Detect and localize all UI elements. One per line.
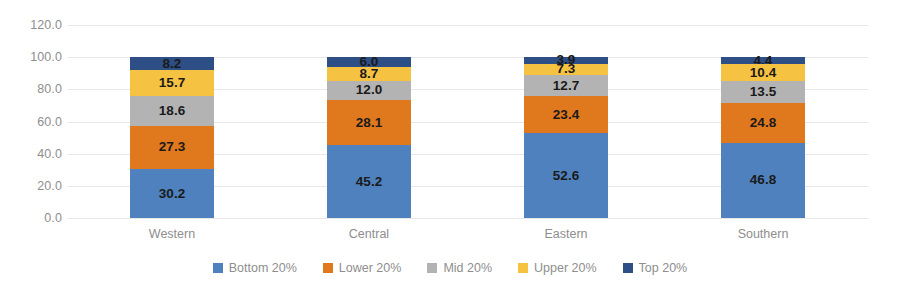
x-axis-category-label: Western (102, 228, 242, 241)
bar-segment[interactable]: 8.7 (327, 67, 411, 81)
legend-item[interactable]: Mid 20% (427, 262, 492, 275)
bar-segment[interactable]: 15.7 (130, 70, 214, 95)
y-axis: 0.020.040.060.080.0100.0120.0 (0, 25, 62, 218)
legend-item[interactable]: Upper 20% (518, 262, 597, 275)
gridline (68, 25, 868, 26)
legend-label: Mid 20% (443, 262, 492, 275)
y-axis-tick-label: 120.0 (6, 19, 62, 32)
x-axis-category-label: Central (299, 228, 439, 241)
bar-value-label: 28.1 (327, 116, 411, 130)
y-axis-tick-label: 80.0 (6, 83, 62, 96)
bar-group-western[interactable]: 8.215.718.627.330.2 (130, 57, 214, 218)
y-axis-tick-label: 100.0 (6, 51, 62, 64)
bar-segment[interactable]: 27.3 (130, 126, 214, 170)
bar-value-label: 12.7 (524, 79, 608, 93)
bar-value-label: 30.2 (130, 187, 214, 201)
bar-group-eastern[interactable]: 3.97.312.723.452.6 (524, 57, 608, 218)
bar-segment[interactable]: 52.6 (524, 133, 608, 218)
bar-segment[interactable]: 18.6 (130, 96, 214, 126)
bar-value-label: 46.8 (721, 174, 805, 188)
bar-value-label: 45.2 (327, 175, 411, 189)
legend-swatch-icon (623, 263, 633, 273)
y-axis-tick-label: 20.0 (6, 180, 62, 193)
bar-segment[interactable]: 7.3 (524, 64, 608, 76)
bar-group-central[interactable]: 6.08.712.028.145.2 (327, 57, 411, 218)
bar-value-label: 52.6 (524, 169, 608, 183)
bar-segment[interactable]: 30.2 (130, 169, 214, 218)
bar-value-label: 27.3 (130, 141, 214, 155)
bar-segment[interactable]: 6.0 (327, 57, 411, 67)
bar-group-southern[interactable]: 4.410.413.524.846.8 (721, 57, 805, 218)
legend-swatch-icon (518, 263, 528, 273)
stacked-bar-chart: 0.020.040.060.080.0100.0120.0 8.215.718.… (0, 0, 900, 296)
legend-label: Top 20% (639, 262, 688, 275)
bar-value-label: 10.4 (721, 66, 805, 80)
legend-item[interactable]: Top 20% (623, 262, 688, 275)
y-axis-tick-label: 0.0 (6, 212, 62, 225)
legend-label: Upper 20% (534, 262, 597, 275)
legend-label: Bottom 20% (229, 262, 297, 275)
plot-area: 8.215.718.627.330.26.08.712.028.145.23.9… (68, 25, 868, 218)
bar-segment[interactable]: 10.4 (721, 64, 805, 81)
bar-segment[interactable]: 13.5 (721, 81, 805, 103)
bar-value-label: 24.8 (721, 116, 805, 130)
legend-swatch-icon (213, 263, 223, 273)
y-axis-tick-label: 40.0 (6, 148, 62, 161)
bar-segment[interactable]: 8.2 (130, 57, 214, 70)
bar-segment[interactable]: 4.4 (721, 57, 805, 64)
bar-value-label: 8.7 (327, 67, 411, 81)
bar-segment[interactable]: 45.2 (327, 145, 411, 218)
legend-item[interactable]: Lower 20% (323, 262, 402, 275)
bar-segment[interactable]: 28.1 (327, 100, 411, 145)
x-axis-category-label: Southern (693, 228, 833, 241)
bar-segment[interactable]: 12.0 (327, 81, 411, 100)
bar-value-label: 12.0 (327, 84, 411, 98)
bar-segment[interactable]: 46.8 (721, 143, 805, 218)
bar-value-label: 8.2 (130, 57, 214, 71)
bar-value-label: 18.6 (130, 104, 214, 118)
gridline (68, 218, 868, 219)
legend-swatch-icon (323, 263, 333, 273)
bar-segment[interactable]: 24.8 (721, 103, 805, 143)
legend-label: Lower 20% (339, 262, 402, 275)
y-axis-tick-label: 60.0 (6, 116, 62, 129)
legend-swatch-icon (427, 263, 437, 273)
legend-item[interactable]: Bottom 20% (213, 262, 297, 275)
bar-value-label: 23.4 (524, 108, 608, 122)
bar-segment[interactable]: 23.4 (524, 96, 608, 134)
bar-value-label: 13.5 (721, 85, 805, 99)
bar-value-label: 15.7 (130, 76, 214, 90)
bar-value-label: 7.3 (524, 63, 608, 77)
x-axis-category-label: Eastern (496, 228, 636, 241)
bar-segment[interactable]: 12.7 (524, 75, 608, 95)
chart-legend: Bottom 20%Lower 20%Mid 20%Upper 20%Top 2… (0, 262, 900, 275)
